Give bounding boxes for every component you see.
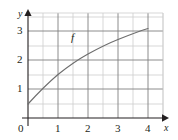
y-tick-label-2: 2	[17, 54, 23, 65]
minor-gridlines	[28, 13, 163, 118]
y-tick-label-1: 1	[17, 83, 23, 94]
x-axis-label: x	[164, 123, 168, 133]
y-tick-label-3: 3	[17, 25, 23, 36]
major-gridlines	[28, 13, 163, 118]
graph-figure: y x f 3 2 1 0 1 2 3 4	[0, 0, 178, 140]
y-axis	[24, 9, 31, 126]
x-tick-label-4: 4	[145, 123, 151, 134]
y-axis-label: y	[18, 9, 22, 19]
x-tick-label-2: 2	[85, 123, 91, 134]
curve-label-f: f	[71, 32, 74, 43]
x-tick-label-1: 1	[55, 123, 61, 134]
plot-area	[0, 0, 178, 140]
x-axis	[22, 114, 169, 122]
x-tick-label-0: 0	[18, 123, 24, 134]
x-tick-label-3: 3	[115, 123, 121, 134]
